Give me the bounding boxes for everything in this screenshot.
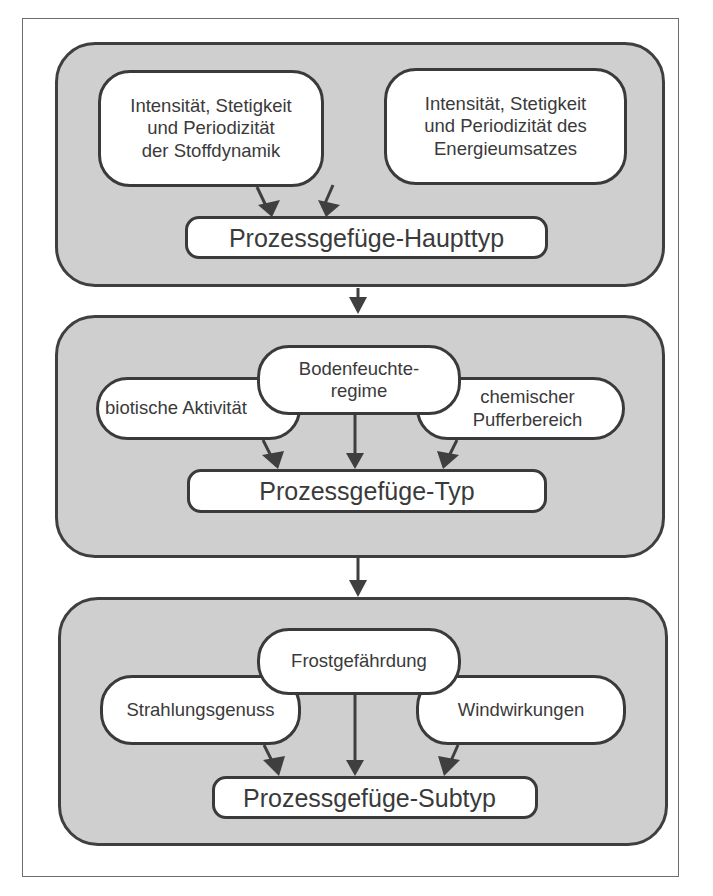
factor-line: und Periodizität — [130, 117, 291, 139]
factor-line: Intensität, Stetigkeit — [130, 95, 291, 117]
factor-line: und Periodizität des — [424, 115, 587, 137]
result-subtyp: Prozessgefüge-Subtyp — [212, 776, 538, 819]
result-label: Prozessgefüge-Haupttyp — [229, 223, 504, 253]
result-label: Prozessgefüge-Subtyp — [243, 783, 496, 813]
factor-line: Frostgefährdung — [291, 650, 427, 672]
result-label: Prozessgefüge-Typ — [259, 476, 474, 506]
factor-line: regime — [299, 380, 419, 402]
factor-line: Pufferbereich — [473, 409, 583, 431]
factor-frostgefaehrdung: Frostgefährdung — [257, 628, 461, 695]
factor-line: Strahlungsgenuss — [126, 699, 274, 721]
factor-line: Intensität, Stetigkeit — [424, 93, 587, 115]
factor-energieumsatz: Intensität, Stetigkeit und Periodizität … — [384, 68, 627, 185]
result-haupttyp: Prozessgefüge-Haupttyp — [185, 216, 548, 259]
factor-stoffdynamik: Intensität, Stetigkeit und Periodizität … — [98, 70, 324, 187]
factor-line: Windwirkungen — [458, 699, 584, 721]
factor-bodenfeuchteregime: Bodenfeuchte- regime — [257, 345, 461, 415]
factor-line: biotische Aktivität — [105, 397, 247, 419]
result-typ: Prozessgefüge-Typ — [187, 469, 547, 513]
factor-line: chemischer — [473, 386, 583, 408]
factor-line: der Stoffdynamik — [130, 140, 291, 162]
factor-line: Energieumsatzes — [424, 138, 587, 160]
factor-line: Bodenfeuchte- — [299, 358, 419, 380]
